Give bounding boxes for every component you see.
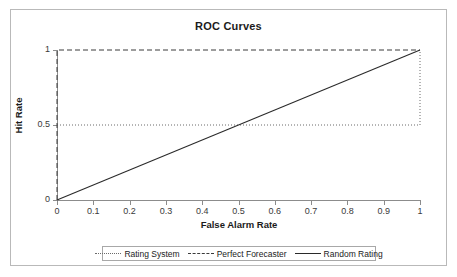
legend-line-dotted-icon — [95, 250, 121, 257]
legend-label: Rating System — [124, 249, 179, 259]
y-axis-tick — [53, 125, 57, 126]
x-axis-title: False Alarm Rate — [57, 219, 421, 230]
x-axis-tick-label: 0.7 — [291, 206, 331, 216]
x-axis-tick-label: 0.1 — [73, 206, 113, 216]
y-axis-tick-label: 0.5 — [20, 119, 50, 129]
legend-entry[interactable]: Random Rating — [291, 249, 387, 259]
legend-label: Perfect Forecaster — [217, 249, 287, 259]
x-axis-tick-label: 0.4 — [182, 206, 222, 216]
x-axis-tick — [57, 201, 58, 205]
x-axis-tick-label: 0.2 — [110, 206, 150, 216]
legend-entry[interactable]: Rating System — [91, 249, 183, 259]
x-axis-tick — [347, 201, 348, 205]
legend-label: Random Rating — [324, 249, 383, 259]
x-axis-tick — [384, 201, 385, 205]
roc-curves-chart: ROC Curves 00.10.20.30.40.50.60.70.80.91… — [0, 0, 457, 277]
x-axis-tick-label: 0.5 — [219, 206, 259, 216]
x-axis-tick-label: 0.9 — [364, 206, 404, 216]
x-axis-tick-label: 0 — [37, 206, 77, 216]
x-axis-tick-label: 0.6 — [255, 206, 295, 216]
y-axis-title: Hit Rate — [13, 86, 24, 146]
y-axis-line — [57, 50, 58, 201]
x-axis-tick — [420, 201, 421, 205]
x-axis-tick-label: 0.8 — [327, 206, 367, 216]
y-axis-tick — [53, 50, 57, 51]
legend-line-solid-icon — [295, 250, 321, 257]
x-axis-tick-label: 1 — [400, 206, 440, 216]
x-axis-tick — [130, 201, 131, 205]
x-axis-tick — [311, 201, 312, 205]
x-axis-tick — [239, 201, 240, 205]
chart-legend: Rating SystemPerfect ForecasterRandom Ra… — [102, 246, 376, 261]
x-axis-tick-label: 0.3 — [146, 206, 186, 216]
chart-title: ROC Curves — [0, 20, 457, 32]
x-axis-tick — [93, 201, 94, 205]
y-axis-tick-label: 0 — [20, 194, 50, 204]
y-axis-tick — [53, 200, 57, 201]
legend-line-dashed-icon — [188, 250, 214, 257]
y-axis-tick-label: 1 — [20, 44, 50, 54]
x-axis-tick — [202, 201, 203, 205]
x-axis-tick — [275, 201, 276, 205]
legend-entry[interactable]: Perfect Forecaster — [184, 249, 291, 259]
x-axis-tick — [166, 201, 167, 205]
